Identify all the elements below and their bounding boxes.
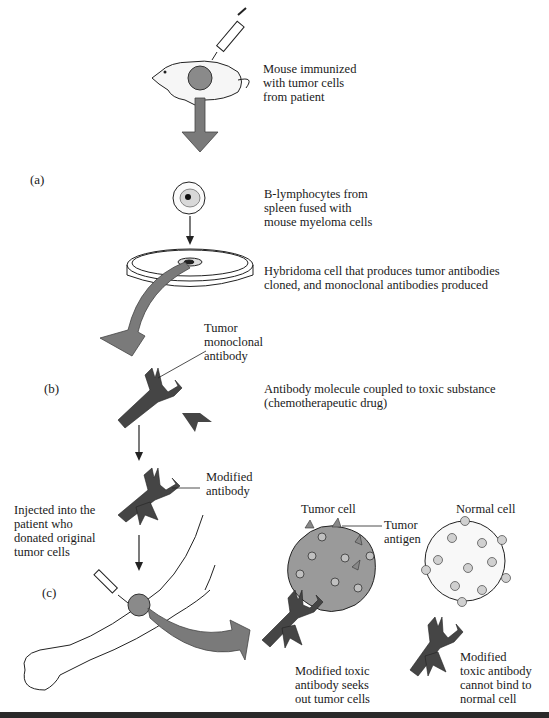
label-modified-antibody: Modified antibody [206, 470, 253, 498]
part-a-label: (a) [30, 172, 44, 188]
label-seeks-tumor: Modified toxic antibody seeks out tumor … [295, 664, 370, 706]
label-injected: Injected into the patient who donated or… [14, 503, 96, 559]
part-b-label: (b) [44, 381, 59, 397]
arm-syringe-icon [94, 570, 128, 603]
part-c-label: (c) [42, 585, 56, 601]
label-normal-cell: Normal cell [456, 502, 515, 516]
b-lymphocyte-cell [173, 182, 205, 214]
unbound-antibody-icon [410, 617, 463, 676]
normal-cell [422, 517, 511, 607]
modified-antibody-icon [118, 468, 180, 525]
label-cannot-bind: Modified toxic antibody cannot bind to n… [460, 650, 532, 706]
curved-arrow-to-cells [148, 608, 250, 660]
syringe-icon [212, 8, 246, 60]
label-tumor-antigen: Tumor antigen [384, 518, 421, 546]
label-fusion: B-lymphocytes from spleen fused with mou… [264, 187, 372, 229]
bottom-border [0, 712, 549, 718]
label-coupling: Antibody molecule coupled to toxic subst… [264, 382, 496, 410]
big-down-arrow [182, 98, 218, 152]
antibody-icon [118, 368, 182, 428]
diagram-artwork [0, 0, 549, 718]
label-tumor-cell: Tumor cell [301, 502, 356, 516]
label-mouse-immunized: Mouse immunized with tumor cells from pa… [263, 62, 356, 104]
label-hybridoma: Hybridoma cell that produces tumor antib… [264, 264, 500, 292]
injection-site [128, 594, 150, 616]
label-tumor-monoclonal-antibody: Tumor monoclonal antibody [204, 321, 263, 363]
toxic-drug-icon [182, 413, 212, 432]
